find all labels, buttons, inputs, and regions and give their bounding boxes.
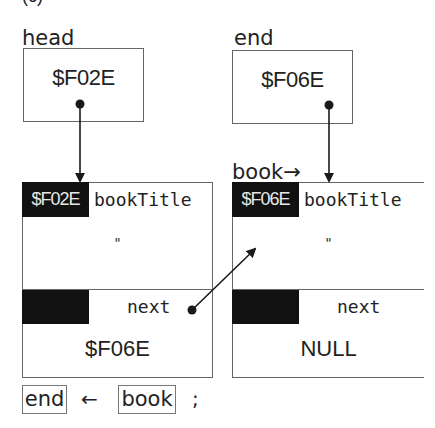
node-1-next-to-node-2-arrow <box>188 249 256 315</box>
head-to-node-1-arrow <box>76 100 85 182</box>
statement-terminator: ; <box>192 387 199 411</box>
end-to-node-2-arrow <box>325 101 334 182</box>
assign-arrow-icon: ← <box>81 387 98 411</box>
pointer-arrows <box>0 0 435 428</box>
statement-lhs-end: end <box>22 385 67 414</box>
statement-rhs-book: book <box>118 385 176 414</box>
